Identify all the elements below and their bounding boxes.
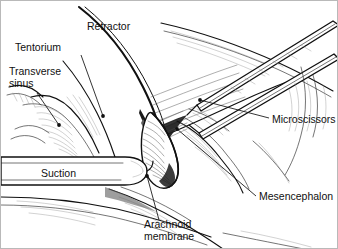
label-arachnoid-membrane-line2: membrane (144, 230, 194, 242)
label-suction: Suction (41, 167, 76, 179)
label-transverse-sinus-line2: sinus (9, 77, 34, 89)
leader-dot-arachnoid-membrane (145, 174, 149, 178)
label-transverse-sinus-line1: Transverse (9, 65, 61, 77)
label-arachnoid-membrane-line1: Arachnoid (144, 218, 191, 230)
suction-tube-instrument (1, 157, 153, 185)
illustration-canvas: Retractor Tentorium Transverse sinus Suc… (1, 1, 338, 249)
surgical-illustration-figure: Retractor Tentorium Transverse sinus Suc… (0, 0, 338, 249)
leader-dot-transverse-sinus (57, 123, 61, 127)
leader-dot-mesencephalon (175, 127, 179, 131)
label-arachnoid-membrane: Arachnoid membrane (144, 218, 218, 242)
label-microscissors: Microscissors (272, 113, 336, 125)
leader-dot-tentorium (101, 114, 105, 118)
label-retractor: Retractor (87, 20, 131, 32)
leader-dot-microscissors (198, 98, 202, 102)
label-mesencephalon: Mesencephalon (259, 190, 333, 202)
label-tentorium: Tentorium (15, 41, 61, 53)
